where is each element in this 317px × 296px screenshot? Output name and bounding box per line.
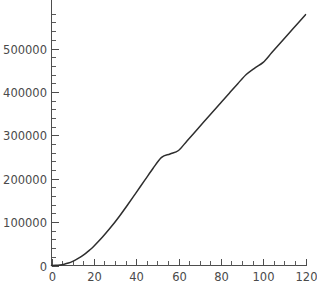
x-tick-label: 60	[172, 270, 187, 284]
y-tick-label: 100000	[3, 216, 47, 230]
y-tick-label: 300000	[3, 129, 47, 143]
x-tick-label: 100	[253, 270, 275, 284]
x-tick-label: 40	[129, 270, 144, 284]
x-tick-label: 20	[87, 270, 102, 284]
x-tick-label: 120	[296, 270, 317, 284]
caption-sliver	[0, 289, 317, 296]
line-chart: 0100000200000300000400000500000 02040608…	[0, 0, 317, 296]
y-tick-label: 400000	[3, 86, 47, 100]
y-tick-label: 0	[40, 260, 47, 274]
y-tick-label: 500000	[3, 43, 47, 57]
chart-background	[0, 0, 317, 296]
chart-container: 0100000200000300000400000500000 02040608…	[0, 0, 317, 296]
x-tick-label: 80	[214, 270, 229, 284]
y-tick-label: 200000	[3, 173, 47, 187]
x-tick-label: 0	[49, 270, 56, 284]
